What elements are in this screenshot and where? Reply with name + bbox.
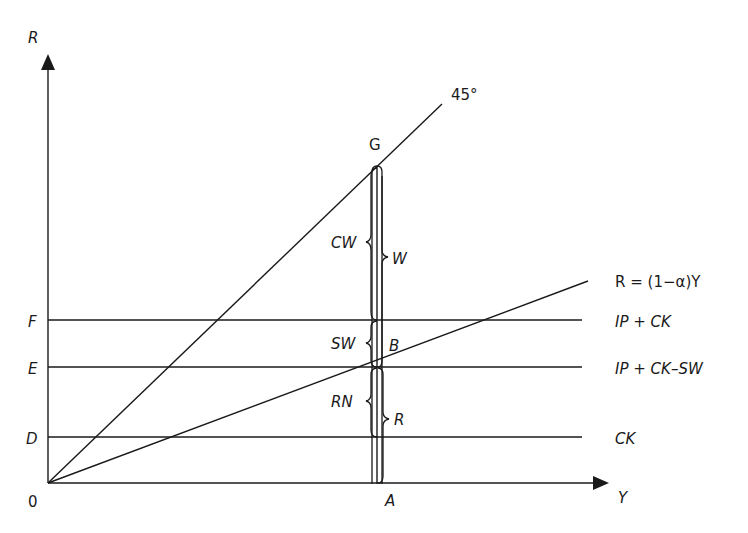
label-45-degree: 45°	[451, 86, 478, 104]
brace-r	[378, 368, 389, 483]
y-axis-arrow-icon	[41, 54, 55, 70]
wage-profit-diagram: R Y 0 F E D CW W SW RN R G B A 45° R = (…	[0, 0, 748, 533]
origin-label: 0	[28, 493, 38, 511]
label-cw: CW	[331, 234, 357, 252]
point-b: B	[389, 337, 399, 355]
label-f: F	[28, 313, 37, 331]
point-a: A	[384, 492, 395, 510]
line-r-equals	[48, 281, 588, 483]
label-r-line: R = (1−α)Y	[615, 273, 701, 291]
x-axis-label: Y	[618, 489, 629, 507]
label-r-brace: R	[394, 411, 404, 429]
label-ip-ck-sw: IP + CK–SW	[615, 360, 704, 378]
point-g: G	[369, 136, 381, 154]
label-d: D	[26, 430, 38, 448]
label-w: W	[392, 250, 408, 268]
x-axis-arrow-icon	[593, 476, 609, 490]
label-sw: SW	[331, 335, 357, 353]
y-axis-label: R	[28, 29, 38, 47]
brace-w	[378, 176, 388, 367]
axes	[41, 54, 609, 490]
label-ck: CK	[615, 430, 636, 448]
label-rn: RN	[331, 393, 353, 411]
label-e: E	[28, 360, 38, 378]
label-ip-ck: IP + CK	[615, 313, 672, 331]
